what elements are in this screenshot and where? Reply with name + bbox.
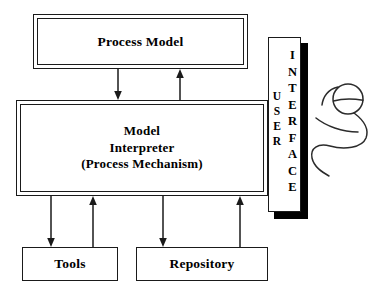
- repository-label: Repository: [170, 255, 235, 272]
- user-interface-user-letter-u-0: U: [273, 89, 281, 104]
- user-interface-interface-letter-i-0: I: [290, 47, 295, 64]
- user-interface-word-interface: INTERFACE: [284, 47, 301, 196]
- model-interpreter-label: Model Interpreter (Process Mechanism): [81, 123, 203, 173]
- user-interface-user-letter-s-1: S: [274, 104, 280, 119]
- tools-label: Tools: [54, 255, 85, 272]
- user-interface-word-user: USER: [270, 89, 284, 149]
- model-interpreter-inner-frame: Model Interpreter (Process Mechanism): [20, 104, 264, 192]
- node-process-model[interactable]: Process Model: [33, 14, 248, 69]
- user-interface-user-letter-e-2: E: [273, 119, 281, 134]
- user-interface-shadow-bottom: [274, 212, 308, 219]
- user-interface-interface-letter-n-1: N: [288, 64, 297, 81]
- stick-figure-head-line: [334, 99, 364, 101]
- arrow-repository-to-interpreter: [236, 196, 244, 247]
- node-tools[interactable]: Tools: [22, 247, 118, 281]
- stick-figure-body: [312, 113, 367, 176]
- architecture-diagram: Process Model Model Interpreter (Process…: [0, 0, 392, 293]
- arrow-tools-to-interpreter: [89, 196, 97, 247]
- user-interface-user-letter-r-3: R: [273, 134, 281, 149]
- user-interface-interface-letter-r-4: R: [288, 113, 297, 130]
- user-interface-interface-letter-e-8: E: [288, 179, 296, 196]
- arrow-group-bottom: [40, 196, 255, 248]
- process-model-inner-frame: Process Model: [37, 18, 244, 65]
- process-model-label: Process Model: [98, 33, 184, 50]
- user-interface-interface-letter-e-3: E: [288, 97, 296, 114]
- arrow-process-model-to-interpreter: [114, 69, 122, 100]
- stick-figure-user-icon: [300, 72, 392, 187]
- user-interface-shadow-right: [301, 43, 308, 219]
- arrow-interpreter-to-process-model: [176, 69, 184, 100]
- node-model-interpreter[interactable]: Model Interpreter (Process Mechanism): [16, 100, 268, 196]
- arrow-interpreter-to-repository: [159, 196, 167, 247]
- node-user-interface[interactable]: USER INTERFACE: [268, 37, 301, 212]
- user-interface-interface-letter-t-2: T: [288, 80, 296, 97]
- arrow-interpreter-to-tools: [47, 196, 55, 247]
- node-repository[interactable]: Repository: [136, 247, 268, 281]
- stick-figure-shoulder: [316, 118, 358, 132]
- user-interface-interface-letter-f-5: F: [289, 130, 297, 147]
- arrow-group-top: [110, 69, 190, 101]
- user-interface-interface-letter-a-6: A: [288, 146, 297, 163]
- user-interface-interface-letter-c-7: C: [288, 163, 297, 180]
